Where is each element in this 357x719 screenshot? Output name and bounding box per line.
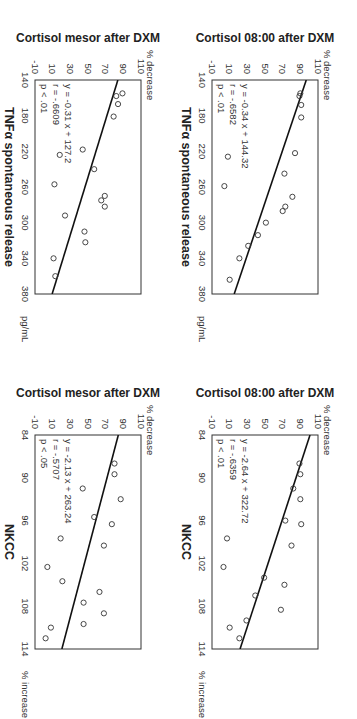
x-unit-label: pg/mL	[20, 316, 31, 342]
x-tick-label: 90	[197, 473, 208, 484]
data-point	[81, 621, 86, 626]
data-point	[112, 472, 117, 477]
y-tick-label: 90	[295, 418, 306, 429]
data-point	[80, 147, 85, 152]
x-axis-title: NKCC	[179, 524, 193, 560]
x-tick-label: 84	[20, 430, 31, 441]
data-point	[120, 91, 125, 96]
y-tick-label: 70	[277, 63, 288, 74]
data-point	[237, 636, 242, 641]
x-tick-label: 90	[20, 473, 31, 484]
data-point	[298, 497, 303, 502]
data-point	[227, 625, 232, 630]
chart-panel-0800-tnf: -101030507090110140180220260300340380% d…	[177, 0, 352, 330]
data-point	[112, 461, 117, 466]
y-tick-label: 10	[224, 63, 235, 74]
x-tick-label: 300	[197, 215, 208, 231]
data-point	[225, 154, 230, 159]
p-value: p < .05	[39, 439, 50, 468]
y-tick-label: 30	[65, 418, 76, 429]
data-point	[115, 101, 120, 106]
data-point	[299, 102, 304, 107]
data-point	[81, 600, 86, 605]
x-tick-label: 102	[197, 555, 208, 571]
data-point	[109, 522, 114, 527]
x-tick-label: 260	[20, 179, 31, 195]
y-tick-label: 70	[277, 418, 288, 429]
y-tick-label: 10	[224, 418, 235, 429]
x-axis-title: NKCC	[2, 524, 16, 560]
data-point	[278, 607, 283, 612]
data-point	[224, 536, 229, 541]
data-point	[292, 151, 297, 156]
data-point	[57, 152, 62, 157]
y-tick-label: 30	[242, 63, 253, 74]
data-point	[244, 618, 249, 623]
data-point	[299, 115, 304, 120]
correlation-r: r = -.6582	[228, 84, 239, 125]
x-tick-label: 180	[197, 108, 208, 124]
y-tick-label: 50	[260, 418, 271, 429]
x-tick-label: 340	[197, 250, 208, 266]
data-point	[290, 194, 295, 199]
data-point	[289, 543, 294, 548]
y-tick-label: 10	[47, 418, 58, 429]
data-point	[222, 184, 227, 189]
y-axis-title: Cortisol mesor after DXM	[16, 386, 160, 400]
y-tick-label: 90	[118, 63, 129, 74]
data-point	[97, 589, 102, 594]
y-tick-label: 30	[65, 63, 76, 74]
x-tick-label: 102	[20, 555, 31, 571]
x-tick-label: 108	[20, 598, 31, 614]
data-point	[299, 522, 304, 527]
y-tick-label: 70	[100, 63, 111, 74]
data-point	[283, 518, 288, 523]
data-point	[102, 193, 107, 198]
y-unit-label: % decrease	[145, 50, 156, 100]
chart-panel-mesor-tnf: -101030507090110140180220260300340380% d…	[0, 0, 175, 330]
y-tick-label: 90	[118, 418, 129, 429]
x-tick-label: 140	[20, 72, 31, 88]
y-axis-title: Cortisol 08:00 after DXM	[196, 31, 335, 45]
data-point	[114, 93, 119, 98]
y-tick-label: 50	[83, 63, 94, 74]
data-point	[118, 497, 123, 502]
data-point	[282, 582, 287, 587]
data-point	[60, 579, 65, 584]
p-value: p < .01	[216, 84, 227, 113]
x-tick-label: 340	[20, 250, 31, 266]
x-tick-label: 96	[197, 515, 208, 526]
data-point	[263, 220, 268, 225]
x-axis-title: TNFα spontaneous release	[179, 107, 193, 267]
data-point	[282, 171, 287, 176]
y-tick-label: 50	[260, 63, 271, 74]
y-tick-label: -10	[30, 415, 41, 429]
y-unit-label: % decrease	[322, 405, 333, 455]
data-point	[43, 636, 48, 641]
y-tick-label: -10	[207, 60, 218, 74]
data-point	[82, 229, 87, 234]
regression-equation: y = -2.64 x + 322.72	[240, 439, 251, 524]
x-axis-title: TNFα spontaneous release	[2, 107, 16, 267]
data-point	[52, 182, 57, 187]
data-point	[51, 256, 56, 261]
x-tick-label: 96	[20, 515, 31, 526]
x-tick-label: 380	[20, 286, 31, 302]
correlation-r: r = -.6609	[51, 84, 62, 125]
data-point	[237, 256, 242, 261]
data-point	[83, 240, 88, 245]
x-tick-label: 220	[197, 143, 208, 159]
y-tick-label: 10	[47, 63, 58, 74]
x-tick-label: 220	[20, 143, 31, 159]
x-tick-label: 84	[197, 430, 208, 441]
data-point	[102, 204, 107, 209]
y-tick-label: 70	[100, 418, 111, 429]
data-point	[45, 564, 50, 569]
x-tick-label: 114	[197, 641, 208, 656]
data-point	[227, 277, 232, 282]
y-tick-label: -10	[207, 415, 218, 429]
y-axis-title: Cortisol mesor after DXM	[16, 31, 160, 45]
x-tick-label: 380	[197, 286, 208, 302]
regression-equation: y = -2.13 x + 263.24	[63, 439, 74, 524]
regression-equation: y = -0.34 x + 144.32	[240, 84, 251, 169]
